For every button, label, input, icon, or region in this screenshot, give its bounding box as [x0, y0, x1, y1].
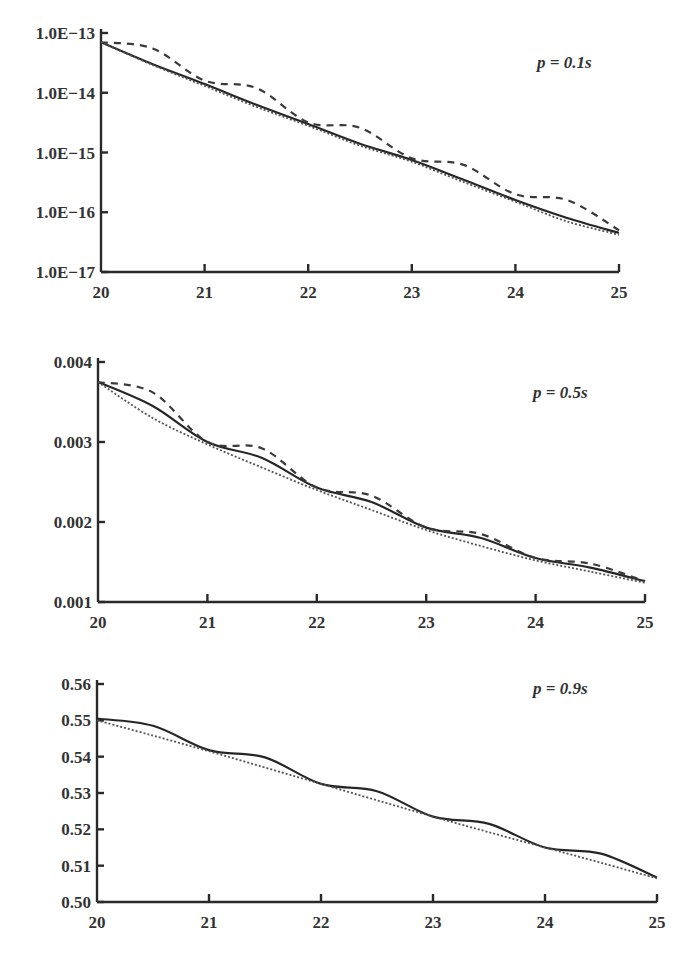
x-tick-label: 25: [637, 613, 654, 632]
y-tick-label: 0.004: [54, 353, 93, 372]
y-tick-label: 0.001: [54, 593, 92, 612]
chart-panel-p05: 0.0040.0030.0020.001202122232425p = 0.5s: [54, 353, 654, 632]
y-tick-label: 0.53: [61, 784, 91, 803]
x-tick-label: 22: [300, 283, 317, 302]
y-tick-label: 0.003: [54, 433, 92, 452]
x-tick-label: 24: [537, 913, 555, 932]
x-tick-label: 21: [196, 283, 213, 302]
x-tick-label: 23: [403, 283, 420, 302]
x-tick-label: 21: [199, 613, 216, 632]
x-tick-label: 25: [611, 283, 628, 302]
x-tick-label: 25: [649, 913, 666, 932]
series-solid-line: [98, 382, 645, 581]
y-tick-label: 1.0E−16: [36, 203, 95, 222]
panel-annotation: p = 0.9s: [531, 679, 588, 698]
y-tick-label: 1.0E−14: [36, 84, 96, 103]
x-tick-label: 20: [90, 613, 107, 632]
figure: 1.0E−131.0E−141.0E−151.0E−161.0E−1720212…: [0, 0, 683, 961]
y-tick-label: 0.56: [61, 675, 91, 694]
y-tick-label: 0.54: [61, 748, 91, 767]
y-tick-label: 0.51: [61, 857, 91, 876]
y-tick-label: 1.0E−13: [36, 24, 95, 43]
x-tick-label: 23: [418, 613, 435, 632]
chart-panel-p09: 0.560.550.540.530.520.510.50202122232425…: [61, 675, 665, 932]
y-tick-label: 0.50: [61, 893, 91, 912]
series-solid-line: [97, 719, 657, 878]
x-tick-label: 24: [507, 283, 525, 302]
y-tick-label: 1.0E−17: [36, 263, 96, 282]
x-tick-label: 23: [425, 913, 442, 932]
chart-panel-p01: 1.0E−131.0E−141.0E−151.0E−161.0E−1720212…: [36, 24, 628, 302]
y-tick-label: 0.002: [54, 513, 92, 532]
panel-annotation: p = 0.1s: [535, 53, 592, 72]
x-tick-label: 20: [93, 283, 110, 302]
x-tick-label: 20: [89, 913, 106, 932]
y-tick-label: 0.55: [61, 711, 91, 730]
x-tick-label: 24: [527, 613, 545, 632]
y-tick-label: 0.52: [61, 820, 91, 839]
series-dotted-line: [98, 382, 645, 583]
x-tick-label: 22: [313, 913, 330, 932]
panel-annotation: p = 0.5s: [531, 383, 588, 402]
x-tick-label: 22: [308, 613, 325, 632]
series-dotted-line: [97, 720, 657, 878]
x-tick-label: 21: [201, 913, 218, 932]
series-dashed-line: [98, 382, 645, 581]
y-tick-label: 1.0E−15: [36, 144, 95, 163]
